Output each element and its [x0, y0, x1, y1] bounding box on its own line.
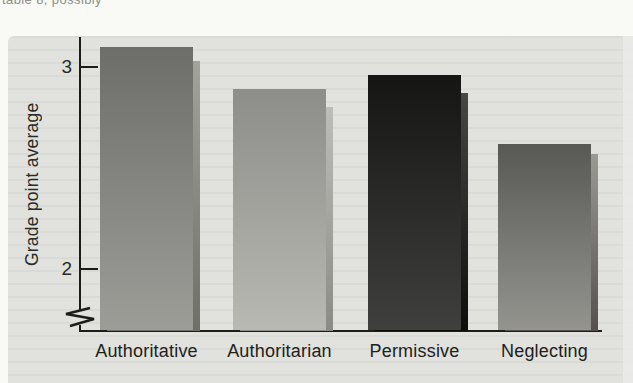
bar-authoritative: [100, 47, 193, 330]
axis-break-icon: [58, 306, 100, 332]
bar-neglecting: [498, 144, 591, 330]
bar-permissive: [368, 75, 461, 330]
y-tick-label: 2: [46, 259, 72, 278]
y-axis-title: Grade point average: [20, 68, 44, 300]
x-axis-label-permissive: Permissive: [345, 341, 485, 362]
y-tick-mark: [81, 66, 98, 68]
scanned-textbook-figure: table 8, possibly Grade point average 32…: [0, 0, 633, 383]
x-axis-label-authoritative: Authoritative: [77, 341, 217, 362]
cropped-caption-text: table 8, possibly: [2, 0, 102, 7]
y-tick-label: 3: [46, 57, 72, 76]
x-axis-label-authoritarian: Authoritarian: [210, 341, 350, 362]
bar-authoritarian: [233, 89, 326, 330]
panel-right-fade: [623, 36, 633, 383]
y-tick-mark: [81, 268, 98, 270]
x-axis-label-neglecting: Neglecting: [475, 341, 615, 362]
